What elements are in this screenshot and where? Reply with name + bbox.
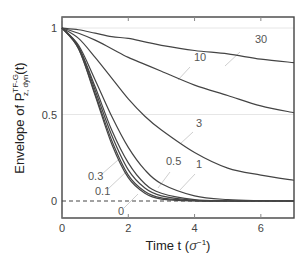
curve-label: 0.3 bbox=[88, 170, 103, 182]
x-tick-label: 4 bbox=[192, 222, 198, 234]
y-axis-title: Envelope of PTF-Gz, dyn(t) bbox=[11, 62, 30, 173]
label-leader-line bbox=[178, 67, 190, 80]
curve-labels: 301030.510.30.10 bbox=[88, 33, 267, 217]
curve-label: 10 bbox=[194, 51, 206, 63]
y-tick-label: 0 bbox=[51, 195, 57, 207]
y-tick-label: 0.5 bbox=[42, 109, 57, 121]
curve-label: 1 bbox=[196, 158, 202, 170]
x-tick-label: 0 bbox=[59, 222, 65, 234]
label-leader-line bbox=[180, 174, 195, 190]
curve-label: 30 bbox=[255, 33, 267, 45]
label-leader-line bbox=[108, 172, 126, 189]
label-leader-line bbox=[180, 132, 193, 144]
x-tick-label: 6 bbox=[258, 222, 264, 234]
curve-label: 0.5 bbox=[166, 155, 181, 167]
curve-label: 0 bbox=[118, 205, 124, 217]
curve-label: 0.1 bbox=[95, 185, 110, 197]
envelope-chart: 024600.51 301030.510.30.10 Time t (σ−1) … bbox=[0, 0, 308, 263]
label-leader-line bbox=[102, 160, 118, 174]
x-axis-title: Time t (σ−1) bbox=[146, 238, 211, 253]
y-tick-label: 1 bbox=[51, 22, 57, 34]
x-tick-label: 2 bbox=[125, 222, 131, 234]
curve-label: 3 bbox=[196, 117, 202, 129]
